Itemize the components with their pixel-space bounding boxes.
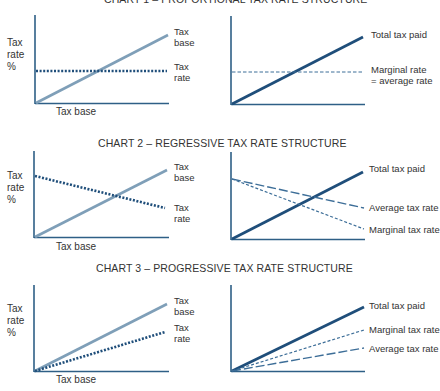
chart3-average-label: Average tax rate	[369, 343, 439, 354]
chart2-xlabel: Tax base	[56, 241, 96, 253]
chart3-total-tax-label: Total tax paid	[369, 300, 425, 311]
chart2-average-label: Average tax rate	[369, 202, 439, 213]
chart1-total-tax-label: Total tax paid	[371, 29, 427, 40]
chart3-tax-base-label: Tax base	[174, 295, 195, 317]
chart1-marginal-label: Marginal rate	[371, 64, 426, 75]
chart1-title: CHART 1 – PROPORTIONAL TAX RATE STRUCTUR…	[104, 0, 367, 5]
chart3-tax-rate-label: Tax rate	[174, 322, 190, 344]
chart2-right-panel	[231, 152, 365, 240]
chart1-left-panel	[35, 15, 169, 104]
chart3-left-panel	[34, 285, 169, 372]
chart3-title: CHART 3 – PROGRESSIVE TAX RATE STRUCTURE	[96, 262, 353, 274]
chart1-average-label: = average rate	[371, 75, 433, 86]
chart3-xlabel: Tax base	[56, 374, 96, 386]
chart1-ylabel: Tax rate %	[7, 37, 27, 73]
chart1-tax-rate-label: Tax rate	[174, 61, 190, 83]
chart2-tax-rate-label: Tax rate	[174, 202, 190, 224]
chart2-left-panel	[34, 151, 169, 238]
chart3-ylabel: Tax rate %	[7, 303, 27, 339]
chart2-total-tax-label: Total tax paid	[369, 163, 425, 174]
chart1-tax-base-label: Tax base	[174, 26, 195, 48]
chart1-right-panel	[231, 16, 365, 105]
chart2-marginal-label: Marginal tax rate	[369, 224, 440, 235]
chart2-title: CHART 2 – REGRESSIVE TAX RATE STRUCTURE	[98, 137, 347, 149]
chart3-marginal-label: Marginal tax rate	[369, 324, 440, 335]
chart3-right-panel	[231, 285, 365, 372]
chart2-tax-base-label: Tax base	[174, 161, 195, 183]
chart1-xlabel: Tax base	[56, 106, 96, 118]
chart2-ylabel: Tax rate %	[7, 170, 27, 206]
